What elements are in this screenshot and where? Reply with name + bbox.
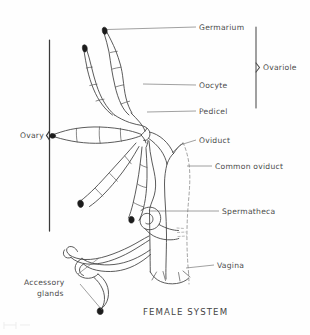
female-reproductive-system-figure: Germarium Ovariole Oocyte Pedicel Oviduc… (0, 0, 310, 335)
ovary-bracket (47, 40, 50, 231)
diagram-canvas: Germarium Ovariole Oocyte Pedicel Oviduc… (0, 0, 310, 335)
ovariole-bracket (256, 27, 260, 108)
leader-pedicel (147, 111, 196, 112)
label-oviduct: Oviduct (199, 136, 230, 145)
label-accessory-glands-line1: Accessory (24, 278, 65, 287)
label-ovary: Ovary (20, 131, 44, 140)
leader-vagina (186, 265, 214, 268)
label-oocyte: Oocyte (199, 81, 228, 90)
page-artifact (4, 322, 30, 329)
figure-title: FEMALE SYSTEM (143, 307, 228, 317)
ovariole-upper-right (102, 27, 132, 115)
label-germarium: Germarium (199, 23, 244, 32)
pedicel-junction (115, 113, 150, 148)
label-accessory-glands-line2: glands (37, 289, 64, 298)
ovariole-left-horizontal (50, 127, 142, 143)
label-spermatheca: Spermatheca (222, 207, 275, 216)
label-vagina: Vagina (217, 261, 244, 270)
label-ovariole: Ovariole (263, 63, 297, 72)
leader-germarium (107, 27, 196, 30)
leader-lines (78, 27, 219, 310)
leader-accessory-glands-lower (80, 284, 102, 310)
label-common-oviduct: Common oviduct (215, 162, 283, 171)
accessory-glands (63, 236, 150, 315)
common-oviduct-and-body-outline (149, 141, 190, 284)
spermatheca (140, 207, 186, 240)
ovariole-lower-center (129, 147, 148, 223)
ovariole-lower-left (78, 143, 139, 207)
leader-oocyte (143, 84, 196, 85)
label-pedicel: Pedicel (199, 107, 228, 116)
